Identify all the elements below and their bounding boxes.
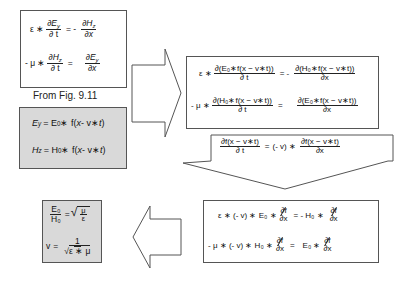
equation-2: - μ ∗ ∂Hz ∂ t = ∂Ey ∂x [25,53,102,73]
equation-2: - μ ∗ ∂(H₀∗f(x − v∗t)) ∂ t = ∂(E₀∗f(x − … [191,97,360,115]
equation-1: ε ∗ (- v) ∗ E₀ ∗ ∂f ∂x = - H₀ ∗ ∂f ∂x [218,207,341,224]
source-label: From Fig. 9.11 [33,90,97,101]
coefficient: ε ∗ [30,24,44,34]
fraction: ∂(H₀∗f(x − v∗t)) ∂ t [212,97,273,115]
fraction: ∂(E₀∗f(x − v∗t)) ∂x [297,97,358,115]
impedance-equation: E₀ H₀ = √ μ ε [48,205,90,224]
equation-hz: Hz = H0 ∗ f(x - v∗t ) [32,145,105,155]
equation-ey: Ey = E0 ∗ f(x - v∗t ) [32,118,104,128]
operator: = [68,58,73,68]
fraction: ∂(H₀∗f(x − v∗t)) ∂x [294,65,355,83]
cancelled-fraction: ∂f ∂x [329,207,339,224]
fraction: ∂Hz ∂ t [47,53,62,73]
cancelled-fraction: ∂f ∂x [275,237,285,254]
fraction: ∂f(x − v∗t) ∂ t [220,138,260,156]
fraction: E₀ H₀ [50,205,62,224]
maxwell-equations-box: ε ∗ ∂Ey ∂ t = - ∂Hz ∂x - μ ∗ ∂Hz ∂ t = ∂… [20,10,127,88]
equation-2: - μ ∗ (- v) ∗ H₀ ∗ ∂f ∂x = E₀ ∗ ∂f ∂x [208,237,334,254]
coefficient: - μ ∗ [25,58,45,68]
fraction: 1 √ε ∗ μ [63,237,91,256]
fraction: ∂Ey ∂x [85,53,100,73]
cancelled-fraction: ∂f ∂x [279,207,289,224]
operator: = - [66,24,76,34]
radical-icon: √ [71,206,78,224]
chain-rule-equation: ∂f(x − v∗t) ∂ t = (- v) ∗ ∂f(x − v∗t) ∂x [218,138,342,156]
result-box: E₀ H₀ = √ μ ε v = 1 √ε ∗ μ [42,200,102,263]
equation-1: ε ∗ ∂Ey ∂ t = - ∂Hz ∂x [30,19,98,39]
right-arrow [132,49,181,137]
fraction: ∂f(x − v∗t) ∂x [300,138,340,156]
equation-1: ε ∗ ∂(E₀∗f(x − v∗t)) ∂ t = - ∂(H₀∗f(x − … [199,65,357,83]
square-root: √ μ ε [71,206,90,224]
substituted-equations-box: ε ∗ ∂(E₀∗f(x − v∗t)) ∂ t = - ∂(H₀∗f(x − … [186,56,379,129]
cancelled-fraction: ∂f ∂x [322,237,332,254]
velocity-equation: v = 1 √ε ∗ μ [46,237,93,256]
fraction: ∂Ey ∂ t [46,19,61,39]
left-arrow [133,206,181,268]
simplified-equations-box: ε ∗ (- v) ∗ E₀ ∗ ∂f ∂x = - H₀ ∗ ∂f ∂x - … [203,200,379,263]
wave-solution-box: Ey = E0 ∗ f(x - v∗t ) Hz = H0 ∗ f(x - v∗… [19,107,127,169]
fraction: ∂(E₀∗f(x − v∗t)) ∂ t [214,65,275,83]
fraction: ∂Hz ∂x [81,19,96,39]
